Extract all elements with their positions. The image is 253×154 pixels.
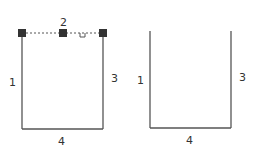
u-marker-icon (80, 33, 85, 37)
right-edge-label-1: 1 (137, 74, 144, 87)
left-edge-label-1: 1 (9, 76, 16, 89)
right-figure: 1 3 4 (137, 31, 246, 147)
diagram-canvas: 2 1 3 4 1 3 4 (0, 0, 253, 154)
right-edge-label-3: 3 (239, 71, 246, 84)
left-edge-label-3: 3 (111, 72, 118, 85)
handle-right[interactable] (99, 29, 107, 37)
handle-left[interactable] (18, 29, 26, 37)
left-edge-label-2: 2 (60, 16, 67, 29)
handle-middle[interactable] (59, 29, 67, 37)
left-edge-label-4: 4 (58, 135, 65, 148)
left-figure: 2 1 3 4 (9, 16, 118, 148)
right-edge-label-4: 4 (186, 134, 193, 147)
